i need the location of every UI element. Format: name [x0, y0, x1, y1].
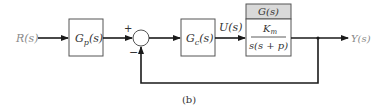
- plant-block: G(s) Km s(s + p): [246, 4, 291, 56]
- output-label: Y(s): [351, 33, 371, 44]
- figure-caption: (b): [182, 94, 196, 105]
- plus-sign: +: [124, 23, 132, 34]
- control-signal-label: U(s): [219, 21, 243, 34]
- minus-sign: −: [129, 46, 138, 59]
- input-label: R(s): [15, 32, 39, 45]
- plant-denominator: s(s + p): [249, 40, 288, 51]
- plant-header-label: G(s): [258, 6, 279, 17]
- summing-junction: [133, 30, 149, 46]
- controller-label: Gc(s): [186, 32, 214, 47]
- prefilter-label: Gp(s): [75, 32, 103, 47]
- block-diagram: R(s) Gp(s) + − Gc(s) U(s) G(s) Km s(s + …: [0, 0, 379, 112]
